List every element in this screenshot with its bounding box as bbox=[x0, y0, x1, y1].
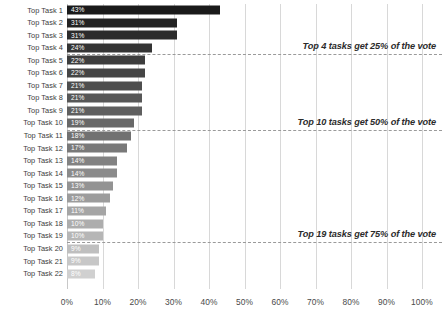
x-axis-tick-label: 90% bbox=[378, 297, 395, 307]
category-label: Top Task 4 bbox=[0, 44, 67, 51]
bar-value-label: 9% bbox=[67, 245, 81, 252]
bar-value-label: 11% bbox=[67, 208, 84, 215]
chart-row: Top Task 143% bbox=[0, 4, 442, 17]
category-label: Top Task 2 bbox=[0, 19, 67, 26]
x-axis-tick-label: 60% bbox=[271, 297, 288, 307]
chart-row: Top Task 1314% bbox=[0, 155, 442, 168]
x-axis-tick-label: 0% bbox=[61, 297, 73, 307]
bar: 19% bbox=[67, 119, 134, 128]
category-label: Top Task 11 bbox=[0, 132, 67, 139]
bar: 21% bbox=[67, 81, 142, 90]
bar: 31% bbox=[67, 18, 177, 27]
category-label: Top Task 16 bbox=[0, 195, 67, 202]
x-axis-tick-label: 10% bbox=[94, 297, 111, 307]
bar: 10% bbox=[67, 232, 103, 241]
bar: 21% bbox=[67, 106, 142, 115]
bar-value-label: 43% bbox=[67, 7, 85, 14]
bar-value-label: 31% bbox=[67, 20, 85, 27]
bar-track: 9% bbox=[67, 242, 422, 255]
bar-value-label: 21% bbox=[67, 107, 85, 114]
bar-value-label: 14% bbox=[67, 158, 85, 165]
x-axis-tick-label: 80% bbox=[342, 297, 359, 307]
x-axis-tick-label: 70% bbox=[307, 297, 324, 307]
bar: 11% bbox=[67, 207, 106, 216]
chart-row: Top Task 1711% bbox=[0, 205, 442, 218]
x-axis-tick-label: 20% bbox=[129, 297, 146, 307]
bar-value-label: 22% bbox=[67, 57, 85, 64]
category-label: Top Task 3 bbox=[0, 32, 67, 39]
bar: 18% bbox=[67, 131, 131, 140]
chart-row: Top Task 1414% bbox=[0, 167, 442, 180]
x-axis-tick-label: 40% bbox=[200, 297, 217, 307]
bar: 8% bbox=[67, 269, 95, 278]
chart-row: Top Task 1217% bbox=[0, 142, 442, 155]
bar: 9% bbox=[67, 257, 99, 266]
bar: 43% bbox=[67, 6, 220, 15]
bar-value-label: 18% bbox=[67, 132, 85, 139]
bar-value-label: 19% bbox=[67, 120, 85, 127]
top-tasks-bar-chart: Top Task 143%Top Task 231%Top Task 331%T… bbox=[0, 0, 442, 320]
bar: 14% bbox=[67, 169, 117, 178]
category-label: Top Task 6 bbox=[0, 69, 67, 76]
bar-track: 14% bbox=[67, 167, 422, 180]
bar-value-label: 12% bbox=[67, 195, 85, 202]
annotation-text: Top 4 tasks get 25% of the vote bbox=[303, 41, 436, 51]
annotation-text: Top 19 tasks get 75% of the vote bbox=[298, 229, 436, 239]
bar-track: 11% bbox=[67, 205, 422, 218]
plot-area: Top Task 143%Top Task 231%Top Task 331%T… bbox=[0, 0, 442, 320]
bar: 13% bbox=[67, 181, 113, 190]
annotation-line bbox=[67, 54, 442, 55]
category-label: Top Task 14 bbox=[0, 170, 67, 177]
category-label: Top Task 13 bbox=[0, 157, 67, 164]
category-label: Top Task 12 bbox=[0, 145, 67, 152]
bar-value-label: 31% bbox=[67, 32, 85, 39]
bar-track: 14% bbox=[67, 155, 422, 168]
bar-value-label: 21% bbox=[67, 95, 85, 102]
bar-track: 22% bbox=[67, 54, 422, 67]
category-label: Top Task 22 bbox=[0, 270, 67, 277]
bar-value-label: 8% bbox=[67, 270, 81, 277]
annotation-line bbox=[67, 130, 442, 131]
bar-value-label: 24% bbox=[67, 45, 85, 52]
bar: 24% bbox=[67, 43, 152, 52]
category-label: Top Task 1 bbox=[0, 7, 67, 14]
bar-value-label: 10% bbox=[67, 233, 85, 240]
bar-track: 8% bbox=[67, 267, 422, 280]
bar-track: 10% bbox=[67, 217, 422, 230]
x-axis-tick-label: 50% bbox=[236, 297, 253, 307]
chart-row: Top Task 1810% bbox=[0, 217, 442, 230]
bar-value-label: 10% bbox=[67, 220, 85, 227]
bar-value-label: 22% bbox=[67, 70, 85, 77]
bar-track: 21% bbox=[67, 79, 422, 92]
chart-row: Top Task 1612% bbox=[0, 192, 442, 205]
bar: 21% bbox=[67, 94, 142, 103]
category-label: Top Task 5 bbox=[0, 57, 67, 64]
bar-track: 21% bbox=[67, 92, 422, 105]
bar-track: 18% bbox=[67, 129, 422, 142]
chart-row: Top Task 219% bbox=[0, 255, 442, 268]
chart-row: Top Task 228% bbox=[0, 267, 442, 280]
category-label: Top Task 15 bbox=[0, 182, 67, 189]
bar-track: 12% bbox=[67, 192, 422, 205]
x-axis-tick-label: 100% bbox=[411, 297, 433, 307]
bar-track: 17% bbox=[67, 142, 422, 155]
chart-row: Top Task 1513% bbox=[0, 180, 442, 193]
chart-row: Top Task 1118% bbox=[0, 129, 442, 142]
category-label: Top Task 19 bbox=[0, 232, 67, 239]
bar-value-label: 17% bbox=[67, 145, 85, 152]
bar: 14% bbox=[67, 156, 117, 165]
bar-track: 22% bbox=[67, 67, 422, 80]
x-axis: 0%10%20%30%40%50%60%70%80%90%100% bbox=[67, 292, 422, 312]
chart-row: Top Task 622% bbox=[0, 67, 442, 80]
bar-track: 13% bbox=[67, 180, 422, 193]
category-label: Top Task 8 bbox=[0, 94, 67, 101]
chart-row: Top Task 921% bbox=[0, 104, 442, 117]
bar: 31% bbox=[67, 31, 177, 40]
category-label: Top Task 18 bbox=[0, 220, 67, 227]
bar-track: 31% bbox=[67, 29, 422, 42]
bar: 10% bbox=[67, 219, 103, 228]
bar: 22% bbox=[67, 69, 145, 78]
bar: 22% bbox=[67, 56, 145, 65]
chart-row: Top Task 522% bbox=[0, 54, 442, 67]
category-label: Top Task 20 bbox=[0, 245, 67, 252]
